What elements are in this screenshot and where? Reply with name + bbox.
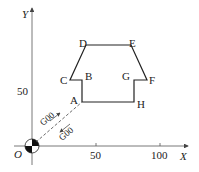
y-tick-50: 50	[17, 85, 29, 97]
contour-path	[70, 45, 147, 102]
point-b-label: B	[85, 70, 92, 82]
x-axis-label: X	[179, 150, 188, 162]
point-f-label: F	[149, 74, 155, 86]
point-h-label: H	[137, 98, 145, 110]
point-e-label: E	[129, 37, 136, 49]
retract-move-label: G00	[57, 125, 76, 143]
point-c-label: C	[60, 74, 67, 86]
y-axis-label: Y	[22, 8, 30, 20]
x-tick-100: 100	[151, 149, 168, 161]
x-axis	[14, 143, 188, 146]
point-a-label: A	[70, 94, 78, 106]
point-d-label: D	[79, 37, 87, 49]
x-tick-50: 50	[90, 149, 102, 161]
origin-label: O	[14, 148, 22, 160]
approach-move-label: G00	[38, 110, 57, 128]
point-g-label: G	[122, 70, 130, 82]
toolpath-diagram: X Y O 50 100 50 G00 G00 A B C D E F G H	[0, 0, 199, 172]
